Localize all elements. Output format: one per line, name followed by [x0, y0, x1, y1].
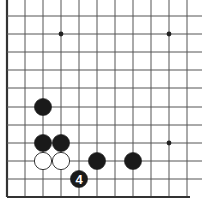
go-board: 4: [0, 0, 202, 211]
move-number-label: 4: [75, 172, 83, 187]
black-stone: [124, 152, 141, 169]
star-point: [167, 32, 172, 37]
black-stone: [52, 134, 69, 151]
black-stone: [34, 134, 51, 151]
star-point: [59, 32, 64, 37]
white-stone: [52, 152, 69, 169]
white-stone: [34, 152, 51, 169]
black-stone: 4: [70, 170, 87, 187]
board-grid: [7, 0, 202, 197]
black-stone: [34, 98, 51, 115]
black-stone: [88, 152, 105, 169]
star-point: [167, 141, 172, 146]
